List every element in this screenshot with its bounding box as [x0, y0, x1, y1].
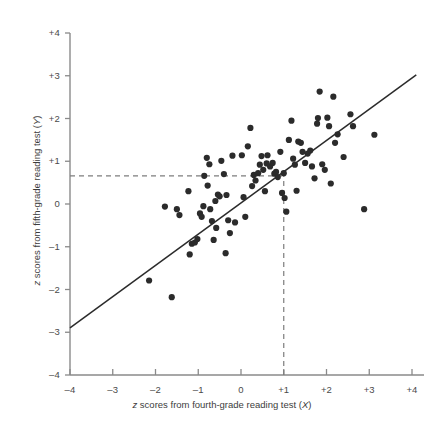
- x-tick-label: +3: [354, 384, 384, 395]
- data-point: [319, 161, 325, 167]
- data-point: [229, 153, 235, 159]
- x-axis-title-tail: ): [308, 399, 311, 410]
- data-point: [200, 203, 206, 209]
- y-axis-title-italic-var: Y: [31, 119, 42, 125]
- data-point: [185, 188, 191, 194]
- data-point: [264, 152, 270, 158]
- data-point: [330, 94, 336, 100]
- y-tick-label: –3: [24, 326, 60, 337]
- data-point: [255, 170, 261, 176]
- y-tick-label: 0: [24, 198, 60, 209]
- data-point: [187, 251, 193, 257]
- x-tick-label: –1: [183, 384, 213, 395]
- scatter-plot-figure: –4–3–2–10+1+2+3+4 –4–3–2–10+1+2+3+4 z sc…: [0, 0, 444, 425]
- y-axis-title-italic-z: z: [31, 281, 42, 286]
- data-point: [326, 123, 332, 129]
- data-point: [309, 163, 315, 169]
- data-point: [317, 88, 323, 94]
- y-tick-label: –4: [24, 369, 60, 380]
- data-point: [371, 132, 377, 138]
- data-point: [242, 214, 248, 220]
- data-point: [225, 217, 231, 223]
- data-point: [290, 156, 296, 162]
- reference-guide-lines: [70, 176, 284, 375]
- data-point: [315, 115, 321, 121]
- data-point: [292, 162, 298, 168]
- data-point: [324, 115, 330, 121]
- data-point: [258, 153, 264, 159]
- axes: [65, 33, 424, 375]
- data-point: [311, 175, 317, 181]
- data-point: [275, 174, 281, 180]
- x-tick-label: 0: [226, 384, 256, 395]
- data-point: [227, 230, 233, 236]
- data-point: [335, 131, 341, 137]
- data-point: [257, 162, 263, 168]
- data-point: [361, 206, 367, 212]
- x-tick-label: –3: [98, 384, 128, 395]
- data-point: [146, 277, 152, 283]
- x-axis-title: z scores from fourth-grade reading test …: [0, 399, 444, 410]
- data-point: [262, 188, 268, 194]
- data-point: [347, 111, 353, 117]
- data-point: [270, 160, 276, 166]
- x-tick-label: –4: [55, 384, 85, 395]
- data-point: [322, 167, 328, 173]
- data-point: [249, 183, 255, 189]
- plot-canvas: [0, 0, 444, 425]
- data-point: [194, 236, 200, 242]
- data-point: [282, 195, 288, 201]
- data-point: [277, 149, 283, 155]
- data-point: [213, 225, 219, 231]
- y-tick-label: +4: [24, 27, 60, 38]
- data-point: [232, 219, 238, 225]
- y-tick-label: +2: [24, 113, 60, 124]
- regression-line: [70, 75, 416, 328]
- data-point: [293, 188, 299, 194]
- data-point: [307, 147, 313, 153]
- data-point: [223, 250, 229, 256]
- data-points: [146, 88, 377, 300]
- x-tick-label: +4: [397, 384, 427, 395]
- data-point: [350, 123, 356, 129]
- data-point: [260, 167, 266, 173]
- x-axis-ticks: [70, 369, 412, 375]
- data-point: [176, 212, 182, 218]
- data-point: [221, 171, 227, 177]
- data-point: [162, 203, 168, 209]
- data-point: [281, 170, 287, 176]
- data-point: [252, 177, 258, 183]
- y-axis-title-text: scores from fifth-grade reading test (: [31, 125, 42, 281]
- y-tick-label: +3: [24, 70, 60, 81]
- y-axis-title: z scores from fifth-grade reading test (…: [31, 81, 42, 321]
- data-point: [209, 218, 215, 224]
- data-point: [205, 183, 211, 189]
- x-tick-label: +2: [312, 384, 342, 395]
- data-point: [223, 192, 229, 198]
- data-point: [201, 173, 207, 179]
- data-point: [298, 140, 304, 146]
- data-point: [245, 143, 251, 149]
- y-axis-title-tail: ): [31, 115, 42, 118]
- data-point: [328, 180, 334, 186]
- data-point: [288, 118, 294, 124]
- y-tick-label: +1: [24, 155, 60, 166]
- data-point: [218, 158, 224, 164]
- data-point: [341, 154, 347, 160]
- data-point: [286, 137, 292, 143]
- data-point: [199, 214, 205, 220]
- data-point: [314, 121, 320, 127]
- data-point: [169, 294, 175, 300]
- x-tick-label: +1: [269, 384, 299, 395]
- y-axis-ticks: [65, 33, 70, 375]
- data-point: [174, 206, 180, 212]
- data-point: [207, 206, 213, 212]
- y-tick-label: –2: [24, 284, 60, 295]
- data-point: [217, 193, 223, 199]
- data-point: [302, 160, 308, 166]
- y-tick-label: –1: [24, 241, 60, 252]
- data-point: [240, 194, 246, 200]
- data-point: [211, 237, 217, 243]
- x-tick-label: –2: [141, 384, 171, 395]
- data-point: [239, 152, 245, 158]
